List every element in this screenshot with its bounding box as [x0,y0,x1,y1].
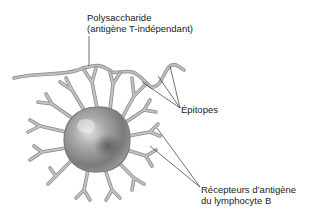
b-lymphocyte-cell [64,107,130,172]
epitopes-label-text: Épitopes [181,104,218,115]
polysaccharide-label-line1: Polysaccharide [87,12,193,23]
epitope-leader-3 [170,66,180,108]
polysaccharide-label: Polysaccharide (antigène T-indépendant) [87,12,193,34]
receptor-leader-1 [157,128,200,187]
polysaccharide-chain [14,65,184,87]
epitope-leader-2 [158,76,180,108]
polysaccharide-label-line2: (antigène T-indépendant) [87,23,193,34]
receptors-label-line2: du lymphocyte B [201,195,296,206]
receptors-label: Récepteurs d’antigène du lymphocyte B [201,184,296,206]
receptors-label-line1: Récepteurs d’antigène [201,184,296,195]
epitopes-label: Épitopes [181,104,218,115]
